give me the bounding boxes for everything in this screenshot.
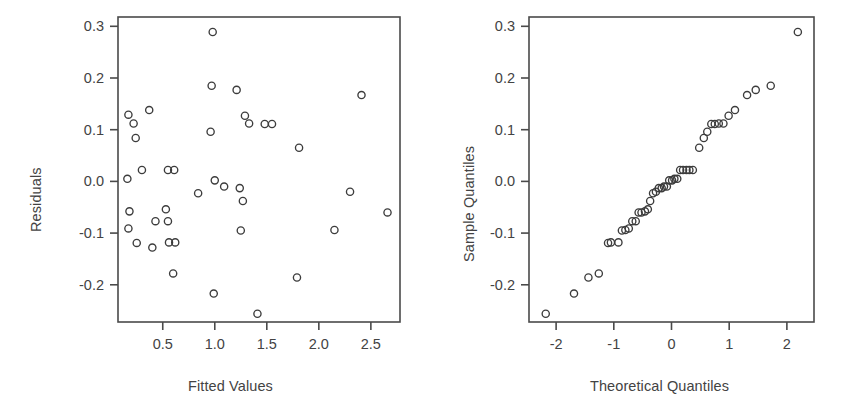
data-point: [542, 310, 549, 317]
right-tick-labels: 0.30.20.10.0-0.1-0.2-2-1012: [490, 18, 791, 352]
data-point: [767, 82, 774, 89]
data-point: [647, 197, 654, 204]
normal-qq-plot: 0.30.20.10.0-0.1-0.2-2-1012: [425, 0, 850, 419]
y-tick-label: 0.2: [84, 70, 104, 86]
data-point: [615, 239, 622, 246]
data-point: [126, 208, 133, 215]
x-tick-label: -2: [550, 336, 563, 352]
data-point: [720, 120, 727, 127]
data-point: [570, 290, 577, 297]
data-point: [346, 188, 353, 195]
plot-frame: [118, 17, 400, 322]
data-point: [239, 197, 246, 204]
y-axis-title: Sample Quantiles: [461, 146, 477, 262]
left-axis-ticks: [110, 26, 371, 330]
y-axis-title: Residuals: [28, 167, 44, 232]
data-point: [384, 209, 391, 216]
y-tick-label: 0.0: [84, 173, 104, 189]
data-point: [125, 111, 132, 118]
data-point: [595, 270, 602, 277]
data-point: [704, 128, 711, 135]
data-point: [358, 91, 365, 98]
data-point: [149, 244, 156, 251]
x-tick-label: 2: [783, 336, 791, 352]
data-point: [752, 86, 759, 93]
x-tick-label: 0.5: [153, 336, 173, 352]
data-point: [585, 274, 592, 281]
data-point: [254, 310, 261, 317]
residuals-vs-fitted-panel: 0.30.20.10.0-0.1-0.20.51.01.52.02.5 Fitt…: [0, 0, 425, 419]
y-tick-label: 0.1: [495, 122, 515, 138]
x-tick-label: 1.5: [257, 336, 277, 352]
x-tick-label: 0: [667, 336, 675, 352]
x-tick-label: 2.5: [361, 336, 381, 352]
scatter-points: [542, 28, 801, 317]
x-tick-label: 2.0: [309, 336, 329, 352]
right-axis-ticks: [521, 26, 787, 330]
data-point: [130, 120, 137, 127]
data-point: [246, 120, 253, 127]
data-point: [295, 144, 302, 151]
y-tick-label: 0.0: [495, 173, 515, 189]
plot-frame: [529, 17, 814, 322]
data-point: [731, 106, 738, 113]
y-tick-label: -0.1: [490, 225, 515, 241]
data-point: [152, 218, 159, 225]
scatter-points: [124, 28, 391, 317]
y-tick-label: 0.3: [495, 18, 515, 34]
data-point: [221, 183, 228, 190]
left-tick-labels: 0.30.20.10.0-0.1-0.20.51.01.52.02.5: [79, 18, 381, 352]
residuals-vs-fitted-plot: 0.30.20.10.0-0.1-0.20.51.01.52.02.5: [0, 0, 425, 419]
y-tick-label: 0.2: [495, 70, 515, 86]
data-point: [241, 112, 248, 119]
y-tick-label: 0.3: [84, 18, 104, 34]
data-point: [133, 239, 140, 246]
x-tick-label: 1: [725, 336, 733, 352]
y-tick-label: -0.2: [490, 277, 515, 293]
data-point: [331, 226, 338, 233]
data-point: [236, 185, 243, 192]
x-tick-label: -1: [607, 336, 620, 352]
x-axis-title: Theoretical Quantiles: [425, 378, 850, 394]
data-point: [794, 28, 801, 35]
x-axis-title: Fitted Values: [0, 378, 425, 394]
data-point: [138, 166, 145, 173]
data-point: [268, 120, 275, 127]
data-point: [743, 91, 750, 98]
data-point: [293, 274, 300, 281]
data-point: [261, 120, 268, 127]
data-point: [696, 144, 703, 151]
data-point: [170, 270, 177, 277]
y-tick-label: 0.1: [84, 122, 104, 138]
data-point: [208, 82, 215, 89]
data-point: [237, 227, 244, 234]
y-tick-label: -0.1: [79, 225, 104, 241]
data-point: [164, 218, 171, 225]
data-point: [195, 190, 202, 197]
data-point: [211, 177, 218, 184]
data-point: [162, 206, 169, 213]
x-tick-label: 1.0: [205, 336, 225, 352]
data-point: [132, 134, 139, 141]
data-point: [209, 28, 216, 35]
data-point: [124, 175, 131, 182]
residual-diagnostics-figure: 0.30.20.10.0-0.1-0.20.51.01.52.02.5 Fitt…: [0, 0, 850, 419]
data-point: [146, 106, 153, 113]
data-point: [210, 290, 217, 297]
y-tick-label: -0.2: [79, 277, 104, 293]
data-point: [125, 225, 132, 232]
data-point: [725, 112, 732, 119]
normal-qq-panel: 0.30.20.10.0-0.1-0.2-2-1012 Theoretical …: [425, 0, 850, 419]
data-point: [233, 86, 240, 93]
data-point: [207, 128, 214, 135]
